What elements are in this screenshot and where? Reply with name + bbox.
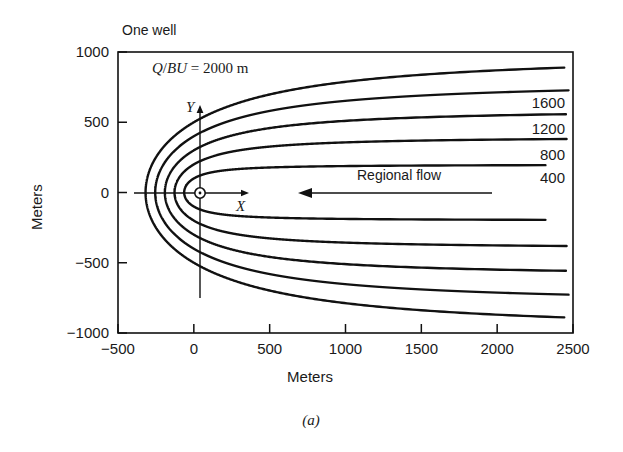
regional-flow-arrow-icon	[298, 188, 492, 198]
panel-note-one-well: One well	[122, 22, 176, 38]
x-tick-label: 0	[190, 340, 198, 357]
figure-caption: (a)	[302, 412, 320, 429]
curve-label-800: 800	[540, 146, 565, 163]
curve-label-1600: 1600	[532, 94, 565, 111]
x-axis-symbol-label: X	[236, 198, 245, 215]
y-tick-label: −500	[75, 254, 109, 271]
x-tick-label: −500	[101, 340, 135, 357]
y-tick-label: −1000	[67, 324, 109, 341]
y-axis-symbol-label: Y	[186, 99, 194, 116]
local-axes	[134, 105, 249, 298]
x-tick-label: 2000	[480, 340, 513, 357]
y-axis-title: Meters	[28, 184, 45, 230]
y-tick-label: 0	[101, 184, 109, 201]
x-tick-label: 500	[257, 340, 282, 357]
y-axis-ticks	[118, 52, 127, 333]
x-tick-label: 1000	[329, 340, 362, 357]
x-tick-label: 2500	[556, 340, 589, 357]
x-axis-ticks	[118, 324, 573, 333]
curve-label-400: 400	[540, 169, 565, 186]
figure-panel-a: One well Q/BU = 2000 m Regional flow Y X…	[0, 0, 623, 452]
well-center-dot-icon	[199, 192, 202, 195]
y-tick-label: 500	[84, 113, 109, 130]
q-over-bu-annotation: Q/BU = 2000 m	[152, 60, 248, 77]
regional-flow-label: Regional flow	[357, 167, 441, 183]
x-tick-label: 1500	[405, 340, 438, 357]
regional-flow-arrowhead	[298, 188, 312, 198]
y-axis-arrowhead	[197, 105, 204, 113]
y-tick-label: 1000	[76, 43, 109, 60]
x-axis-title: Meters	[287, 368, 333, 385]
curve-label-1200: 1200	[532, 120, 565, 137]
x-axis-arrowhead	[241, 190, 249, 196]
